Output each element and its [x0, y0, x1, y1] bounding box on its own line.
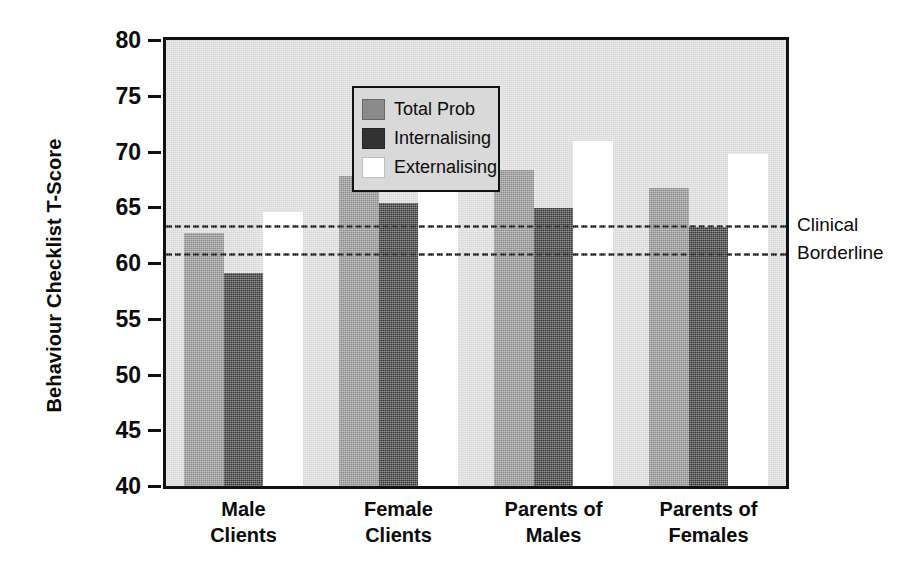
reference-line-label-borderline: Borderline — [797, 242, 884, 264]
x-category-label-1-line1: Female — [321, 497, 476, 523]
x-category-label-3-line1: Parents of — [631, 497, 786, 523]
bar-total-prob-parents-of-males — [494, 170, 534, 486]
bar-internalising-parents-of-males — [534, 208, 574, 486]
y-tick-label-65: 65 — [93, 194, 141, 221]
legend-swatch-internalising — [362, 128, 385, 149]
legend: Total Prob Internalising Externalising — [352, 86, 500, 192]
x-category-label-2-line2: Males — [476, 523, 631, 549]
y-tick-label-50: 50 — [93, 361, 141, 388]
x-category-label-1-line2: Clients — [321, 523, 476, 549]
x-category-label-2-line1: Parents of — [476, 497, 631, 523]
y-tick-label-40: 40 — [93, 473, 141, 500]
bar-total-prob-parents-of-females — [649, 188, 689, 486]
y-tick-mark-65 — [148, 206, 161, 209]
legend-label-externalising: Externalising — [394, 157, 497, 178]
y-tick-label-55: 55 — [93, 305, 141, 332]
x-category-label-0-line2: Clients — [166, 523, 321, 549]
plot-area: Total Prob Internalising Externalising — [163, 37, 789, 489]
reference-line-label-clinical: Clinical — [797, 214, 858, 236]
y-tick-mark-45 — [148, 429, 161, 432]
legend-label-total-prob: Total Prob — [394, 99, 475, 120]
reference-line-clinical — [166, 225, 786, 228]
bar-internalising-parents-of-females — [689, 227, 729, 486]
y-tick-label-80: 80 — [93, 27, 141, 54]
bar-externalising-parents-of-males — [573, 141, 613, 486]
legend-item-total-prob: Total Prob — [362, 95, 490, 124]
y-tick-mark-60 — [148, 262, 161, 265]
x-category-label-0-line1: Male — [166, 497, 321, 523]
x-category-label-3: Parents ofFemales — [631, 497, 786, 548]
reference-line-borderline — [166, 253, 786, 256]
behaviour-checklist-bar-chart: Behaviour Checklist T-Score 807570656055… — [0, 0, 922, 576]
bar-internalising-female-clients — [379, 203, 419, 486]
y-axis-title: Behaviour Checklist T-Score — [43, 46, 66, 506]
bar-total-prob-male-clients — [184, 233, 224, 486]
y-tick-mark-40 — [148, 485, 161, 488]
bar-total-prob-female-clients — [339, 176, 379, 486]
y-tick-mark-50 — [148, 374, 161, 377]
y-tick-label-45: 45 — [93, 417, 141, 444]
legend-label-internalising: Internalising — [394, 128, 491, 149]
x-category-label-1: FemaleClients — [321, 497, 476, 548]
legend-item-internalising: Internalising — [362, 124, 490, 153]
x-category-label-2: Parents ofMales — [476, 497, 631, 548]
y-tick-mark-75 — [148, 95, 161, 98]
legend-item-externalising: Externalising — [362, 153, 490, 182]
y-tick-mark-55 — [148, 318, 161, 321]
bar-internalising-male-clients — [224, 273, 264, 486]
y-tick-label-60: 60 — [93, 250, 141, 277]
y-tick-label-75: 75 — [93, 82, 141, 109]
x-category-label-3-line2: Females — [631, 523, 786, 549]
y-tick-mark-70 — [148, 151, 161, 154]
legend-swatch-externalising — [362, 157, 385, 178]
bar-externalising-parents-of-females — [728, 154, 768, 486]
y-tick-mark-80 — [148, 39, 161, 42]
y-tick-label-70: 70 — [93, 138, 141, 165]
x-category-label-0: MaleClients — [166, 497, 321, 548]
legend-swatch-total-prob — [362, 99, 385, 120]
